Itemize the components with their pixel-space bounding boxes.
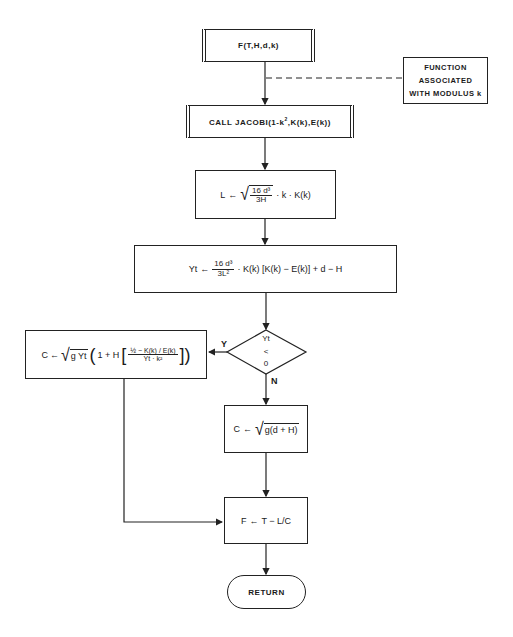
- annotation-line-2: ASSOCIATED: [419, 76, 473, 85]
- entry-function-label: F(T,H,d,k): [238, 41, 279, 50]
- sqrt-symbol-icon: √g Yt: [61, 347, 88, 363]
- yes-branch-label: Y: [221, 339, 227, 349]
- compute-Yt-box: Yt ← 16 d³3L² · K(k) [K(k) − E(k)] + d −…: [134, 245, 397, 293]
- compute-C-yes-box: C ← √g Yt ( 1 + H [ ½ − K(k) / E(k)Yt · …: [25, 330, 207, 379]
- assign-arrow-icon: ←: [249, 516, 258, 526]
- sqrt-symbol-icon: √ 16 d³3H: [240, 185, 273, 205]
- no-branch-label: N: [271, 376, 278, 386]
- compute-C-no-formula: C ← √g(d + H): [233, 421, 298, 437]
- return-terminal: RETURN: [227, 575, 306, 609]
- compute-F-formula: F ← T − L/C: [241, 516, 291, 526]
- assign-arrow-icon: ←: [50, 350, 59, 360]
- annotation-box: FUNCTION ASSOCIATED WITH MODULUS k: [403, 57, 488, 104]
- return-label: RETURN: [248, 588, 284, 597]
- assign-arrow-icon: ←: [200, 264, 209, 274]
- compute-L-box: L ← √ 16 d³3H · k · K(k): [195, 170, 336, 219]
- decision-zero-text: 0: [256, 359, 276, 368]
- decision-yt-text: Yt: [256, 334, 276, 343]
- compute-C-no-box: C ← √g(d + H): [224, 405, 308, 453]
- annotation-line-1: FUNCTION: [424, 63, 467, 72]
- call-jacobi-label: CALL JACOBI(1-k2,K(k),E(k)): [209, 116, 331, 127]
- compute-Yt-formula: Yt ← 16 d³3L² · K(k) [K(k) − E(k)] + d −…: [189, 260, 343, 278]
- compute-C-yes-formula: C ← √g Yt ( 1 + H [ ½ − K(k) / E(k)Yt · …: [41, 346, 190, 364]
- compute-L-formula: L ← √ 16 d³3H · k · K(k): [220, 185, 311, 205]
- sqrt-symbol-icon: √g(d + H): [255, 421, 299, 437]
- assign-arrow-icon: ←: [228, 190, 237, 200]
- entry-function-box: F(T,H,d,k): [202, 29, 315, 62]
- flowchart-canvas: F(T,H,d,k) FUNCTION ASSOCIATED WITH MODU…: [0, 0, 513, 637]
- decision-lt-text: <: [256, 347, 276, 356]
- compute-F-box: F ← T − L/C: [224, 497, 308, 544]
- assign-arrow-icon: ←: [243, 424, 252, 434]
- annotation-line-3: WITH MODULUS k: [409, 89, 481, 98]
- call-jacobi-box: CALL JACOBI(1-k2,K(k),E(k)): [186, 105, 354, 138]
